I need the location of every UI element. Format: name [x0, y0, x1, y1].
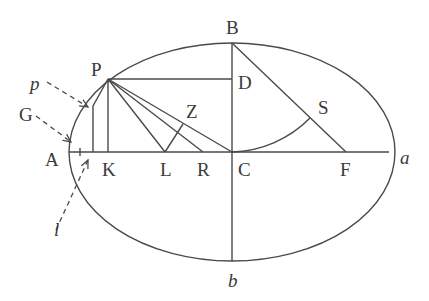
- label-B: B: [226, 17, 239, 38]
- label-L: L: [160, 159, 172, 180]
- label-l: l: [54, 219, 59, 240]
- label-S: S: [318, 97, 329, 118]
- label-b: b: [228, 270, 238, 291]
- ellipse-diagram: P B D Z S A K L R C F a b p G l: [0, 0, 429, 301]
- label-R: R: [197, 159, 210, 180]
- line-PC: [108, 79, 232, 152]
- label-G: G: [19, 104, 33, 125]
- line-P-foot: [93, 79, 108, 152]
- label-p: p: [28, 73, 40, 94]
- label-C: C: [238, 159, 251, 180]
- diagram-canvas: P B D Z S A K L R C F a b p G l: [0, 0, 429, 301]
- label-F: F: [340, 159, 351, 180]
- arrow-G: [36, 116, 71, 142]
- label-D: D: [238, 72, 252, 93]
- line-LZ: [165, 124, 183, 152]
- label-Z: Z: [186, 101, 198, 122]
- arrow-p: [47, 82, 88, 107]
- label-A: A: [45, 149, 59, 170]
- label-P: P: [91, 59, 102, 80]
- arc-CS: [232, 118, 310, 152]
- label-a: a: [400, 147, 410, 168]
- label-K: K: [102, 159, 116, 180]
